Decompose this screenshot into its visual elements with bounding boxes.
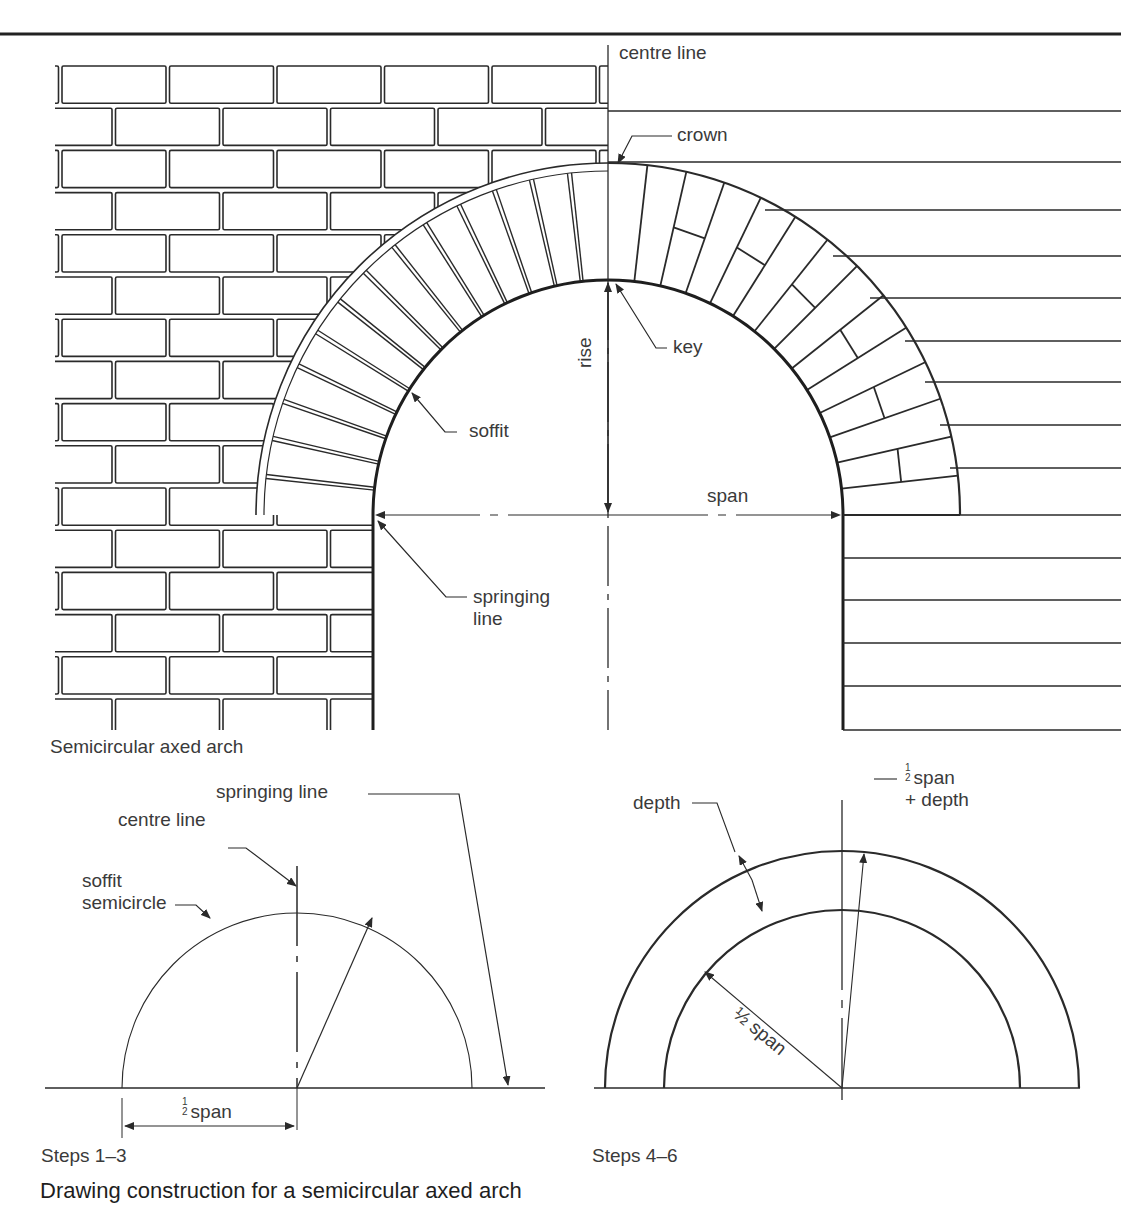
label-springing-line: springing line xyxy=(473,586,550,630)
caption-steps-1-3: Steps 1–3 xyxy=(41,1145,127,1167)
label-half-span-a: 12span xyxy=(182,1097,232,1123)
left-voussoirs xyxy=(256,163,608,515)
label-span: span xyxy=(707,485,748,507)
key-leader xyxy=(616,284,667,348)
label-plus-depth: + depth xyxy=(905,789,969,811)
label-crown: crown xyxy=(677,124,728,146)
figure-title: Drawing construction for a semicircular … xyxy=(40,1178,522,1204)
half-fraction: 12 xyxy=(182,1097,188,1117)
steps-4-6-drawing xyxy=(594,779,1080,1100)
label-half-span-plus-depth: 12span + depth xyxy=(905,763,969,811)
label-semicircle-a: semicircle xyxy=(82,892,166,914)
steps-1-3-drawing xyxy=(45,794,545,1138)
label-springing-line-a: springing line xyxy=(216,781,328,803)
label-centre-line-a: centre line xyxy=(118,809,206,831)
soffit-leader xyxy=(412,393,457,432)
springing-leader xyxy=(378,521,467,597)
caption-steps-4-6: Steps 4–6 xyxy=(592,1145,678,1167)
label-soffit-a: soffit xyxy=(82,870,166,892)
caption-main: Semicircular axed arch xyxy=(50,736,243,758)
right-voussoirs xyxy=(608,163,960,515)
label-key: key xyxy=(673,336,703,358)
arch-drawing xyxy=(0,0,1121,1217)
left-brickwork xyxy=(0,66,704,736)
label-rise: rise xyxy=(574,337,596,368)
label-springing-line-2: line xyxy=(473,608,550,630)
label-soffit-semicircle: soffit semicircle xyxy=(82,870,166,914)
crown-leader xyxy=(618,136,672,163)
label-soffit: soffit xyxy=(469,420,509,442)
label-springing-line-1: springing xyxy=(473,586,550,608)
label-centre-line: centre line xyxy=(619,42,707,64)
label-depth: depth xyxy=(633,792,681,814)
right-coursing xyxy=(608,111,1121,730)
